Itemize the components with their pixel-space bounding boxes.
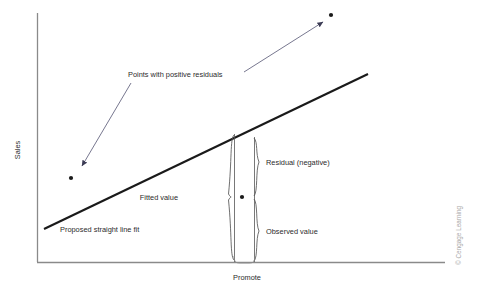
y-axis-label: Sales: [13, 140, 22, 159]
leader-to-high-point: [244, 22, 323, 72]
annotation-positive-residuals: Points with positive residuals: [128, 70, 223, 79]
data-point-observed: [240, 195, 244, 199]
residual-column: [235, 134, 255, 262]
x-axis-label: Promote: [233, 273, 261, 282]
callout-leaders: [82, 22, 323, 166]
annotation-residual: Residual (negative): [266, 158, 330, 167]
annotation-line-fit: Proposed straight line fit: [60, 225, 139, 234]
residual-scatter-diagram: Sales Promote Points with positive resid…: [0, 0, 486, 293]
fitted-value-brace: [229, 135, 235, 260]
regression-line: [44, 74, 368, 229]
annotation-observed-value: Observed value: [266, 227, 318, 236]
data-point-positive-low: [69, 176, 73, 180]
copyright-credit: © Cengage Learning: [455, 205, 463, 265]
data-point-positive-high: [329, 13, 333, 17]
leader-to-low-point: [82, 83, 131, 166]
annotation-fitted-value: Fitted value: [140, 193, 178, 202]
